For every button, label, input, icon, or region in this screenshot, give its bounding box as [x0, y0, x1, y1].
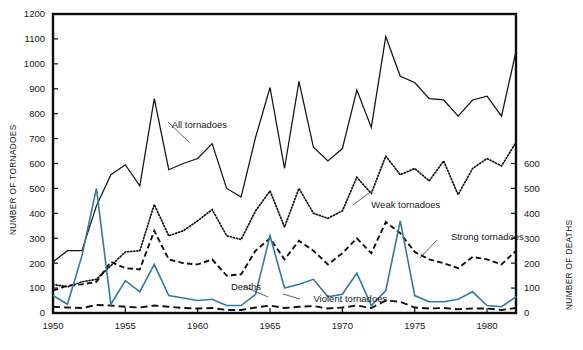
y2-tick-label: 600 — [524, 158, 540, 169]
x-tick-label: 1980 — [476, 320, 497, 331]
y2-tick-label: 300 — [524, 233, 540, 244]
y2-tick-label: 500 — [524, 183, 540, 194]
y-tick-label: 300 — [29, 233, 45, 244]
annotation-leader-line — [420, 240, 437, 258]
annotation-violent-tornadoes: Violent tornadoes — [313, 293, 387, 304]
y-tick-label: 800 — [29, 108, 45, 119]
y-tick-label: 600 — [29, 158, 45, 169]
chart-canvas: 0100200300400500600700800900100011001200… — [0, 0, 583, 350]
x-tick-label: 1970 — [332, 320, 353, 331]
y-tick-label: 700 — [29, 133, 45, 144]
x-tick-label: 1965 — [259, 320, 280, 331]
plot-frame — [53, 14, 516, 313]
y-tick-label: 400 — [29, 208, 45, 219]
y-axis-title-right: NUMBER OF DEATHS — [565, 219, 574, 310]
series-all-tornadoes — [53, 36, 516, 261]
series-annotations: All tornadoesWeak tornadoesStrong tornad… — [168, 119, 524, 304]
x-tick-label: 1975 — [404, 320, 425, 331]
annotation-weak-tornadoes: Weak tornadoes — [371, 199, 440, 210]
tornado-statistics-chart: 0100200300400500600700800900100011001200… — [0, 0, 583, 350]
y-tick-label: 1100 — [25, 33, 45, 44]
y2-tick-label: 400 — [524, 208, 540, 219]
y-tick-label: 0 — [40, 307, 45, 318]
data-series-group — [53, 36, 516, 310]
x-axis-tick-labels: 1950195519601965197019751980 — [42, 320, 497, 331]
series-strong-tornadoes — [53, 222, 516, 291]
y-tick-label: 500 — [29, 183, 45, 194]
series-deaths — [53, 188, 516, 306]
annotation-strong-tornadoes: Strong tornadoes — [451, 231, 524, 242]
annotation-leader-line — [353, 190, 373, 205]
y2-tick-label: 0 — [524, 307, 529, 318]
x-tick-label: 1950 — [42, 320, 63, 331]
annotation-all-tornadoes: All tornadoes — [172, 119, 228, 130]
x-tick-label: 1955 — [115, 320, 136, 331]
annotation-deaths: Deaths — [231, 281, 261, 292]
y2-tick-label: 100 — [524, 282, 540, 293]
y-tick-label: 1200 — [24, 8, 45, 19]
right-axis-tick-labels: 0100200300400500600 — [524, 158, 540, 319]
annotation-leader-line — [283, 294, 300, 299]
x-tick-label: 1960 — [187, 320, 208, 331]
left-axis-tick-labels: 0100200300400500600700800900100011001200 — [24, 8, 45, 318]
y-tick-label: 900 — [29, 83, 45, 94]
y2-tick-label: 200 — [524, 258, 540, 269]
y-axis-title-left: NUMBER OF TORNADOES — [9, 124, 18, 235]
y-tick-label: 100 — [29, 282, 45, 293]
y-tick-label: 200 — [29, 258, 45, 269]
y-tick-label: 1000 — [24, 58, 45, 69]
